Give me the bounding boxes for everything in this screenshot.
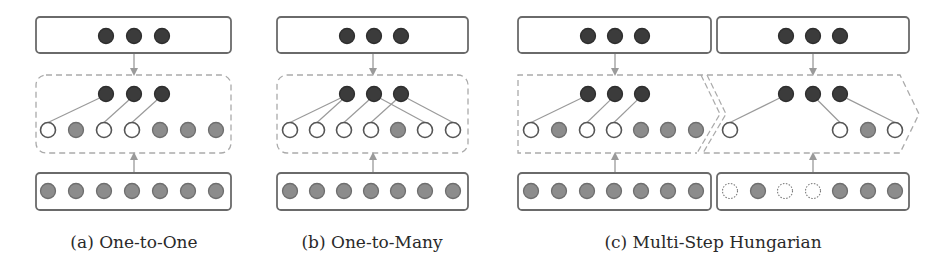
prediction-node bbox=[209, 184, 224, 199]
assignment-link bbox=[407, 98, 453, 122]
candidate-node bbox=[418, 123, 433, 138]
matched-query-node bbox=[581, 87, 596, 102]
panel-one-to-many bbox=[277, 17, 468, 210]
matched-query-node bbox=[608, 87, 623, 102]
panel-multi-step-hungarian-step-1 bbox=[518, 17, 720, 210]
candidate-node bbox=[723, 123, 738, 138]
prediction-node bbox=[524, 184, 539, 199]
candidate-node bbox=[661, 123, 676, 138]
query-node bbox=[127, 29, 142, 44]
prediction-node bbox=[418, 184, 433, 199]
candidate-node bbox=[125, 123, 140, 138]
candidate-node bbox=[209, 123, 224, 138]
query-node bbox=[806, 29, 821, 44]
matched-query-node bbox=[806, 87, 821, 102]
assignment-link bbox=[587, 100, 610, 123]
prediction-node bbox=[364, 184, 379, 199]
prediction-node bbox=[153, 184, 168, 199]
prediction-node bbox=[723, 184, 738, 199]
query-node bbox=[833, 29, 848, 44]
candidate-node bbox=[689, 123, 704, 138]
prediction-node bbox=[751, 184, 766, 199]
matched-query-node bbox=[635, 87, 650, 102]
candidate-node bbox=[181, 123, 196, 138]
query-node bbox=[99, 29, 114, 44]
query-node bbox=[394, 29, 409, 44]
prediction-node bbox=[552, 184, 567, 199]
candidate-node bbox=[888, 123, 903, 138]
assignment-link bbox=[614, 100, 637, 123]
prediction-node bbox=[634, 184, 649, 199]
prediction-node bbox=[446, 184, 461, 199]
candidate-node bbox=[337, 123, 352, 138]
query-node bbox=[155, 29, 170, 44]
candidate-node bbox=[391, 123, 406, 138]
matched-query-node bbox=[394, 87, 409, 102]
assignment-link bbox=[371, 100, 396, 123]
query-node bbox=[608, 29, 623, 44]
prediction-node bbox=[391, 184, 406, 199]
candidate-node bbox=[69, 123, 84, 138]
assignment-link bbox=[132, 100, 157, 123]
prediction-node bbox=[689, 184, 704, 199]
panel-one-to-one bbox=[36, 17, 231, 210]
query-node bbox=[635, 29, 650, 44]
prediction-node bbox=[607, 184, 622, 199]
query-node bbox=[779, 29, 794, 44]
assignment-link bbox=[531, 98, 582, 122]
prediction-node bbox=[806, 184, 821, 199]
candidate-node bbox=[283, 123, 298, 138]
matched-query-node bbox=[833, 87, 848, 102]
assignment-link bbox=[104, 100, 129, 123]
candidate-node bbox=[552, 123, 567, 138]
prediction-node bbox=[580, 184, 595, 199]
assignment-link bbox=[48, 98, 100, 123]
assignment-link bbox=[818, 100, 841, 123]
caption-one-to-one: (a) One-to-One bbox=[70, 232, 197, 252]
matched-query-node bbox=[779, 87, 794, 102]
query-node bbox=[581, 29, 596, 44]
prediction-node bbox=[41, 184, 56, 199]
prediction-node bbox=[661, 184, 676, 199]
candidate-node bbox=[861, 123, 876, 138]
matched-query-node bbox=[127, 87, 142, 102]
prediction-node bbox=[888, 184, 903, 199]
panel-multi-step-hungarian-step-2 bbox=[703, 17, 919, 210]
matching-region bbox=[518, 75, 703, 153]
candidate-node bbox=[446, 123, 461, 138]
prediction-node bbox=[310, 184, 325, 199]
matched-query-node bbox=[367, 87, 382, 102]
prediction-node bbox=[69, 184, 84, 199]
prediction-node bbox=[97, 184, 112, 199]
prediction-node bbox=[778, 184, 793, 199]
prediction-node bbox=[337, 184, 352, 199]
matched-query-node bbox=[340, 87, 355, 102]
chevron-edge bbox=[697, 75, 720, 153]
query-node bbox=[367, 29, 382, 44]
matched-query-node bbox=[99, 87, 114, 102]
candidate-node bbox=[41, 123, 56, 138]
prediction-node bbox=[861, 184, 876, 199]
candidate-node bbox=[580, 123, 595, 138]
query-node bbox=[340, 29, 355, 44]
assignment-link bbox=[730, 98, 780, 122]
assignment-link bbox=[344, 100, 369, 123]
prediction-node bbox=[181, 184, 196, 199]
candidate-node bbox=[833, 123, 848, 138]
matched-query-node bbox=[155, 87, 170, 102]
candidate-node bbox=[607, 123, 622, 138]
candidate-node bbox=[364, 123, 379, 138]
assignment-link bbox=[290, 98, 341, 122]
prediction-node bbox=[283, 184, 298, 199]
candidate-node bbox=[153, 123, 168, 138]
prediction-node bbox=[833, 184, 848, 199]
caption-multi-step-hungarian: (c) Multi-Step Hungarian bbox=[604, 232, 821, 252]
candidate-node bbox=[524, 123, 539, 138]
candidate-node bbox=[634, 123, 649, 138]
caption-one-to-many: (b) One-to-Many bbox=[301, 232, 442, 252]
prediction-node bbox=[125, 184, 140, 199]
candidate-node bbox=[310, 123, 325, 138]
assignment-link bbox=[846, 98, 895, 122]
candidate-node bbox=[97, 123, 112, 138]
